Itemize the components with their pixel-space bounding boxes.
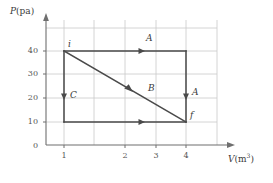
x-tick-label-4: 4 [177,151,195,160]
process-label-B-diagonal: B [148,83,155,93]
y-axis-label-unit: (pa) [16,6,34,16]
arrowhead-path-B-diagonal [124,84,133,92]
x-tick-label-2: 2 [116,151,134,160]
x-tick-label-1: 1 [55,151,73,160]
arrowhead-path-A-top [139,48,146,54]
x-axis-arrowhead [227,142,235,148]
process-label-A-right: A [192,87,199,97]
y-axis-arrowhead [43,13,49,21]
axes [43,13,235,148]
grid-lines [46,20,217,145]
x-axis-label-unit: (m [235,154,247,164]
y-tick-label-30: 30 [20,69,38,78]
process-label-A-top: A [146,33,153,43]
y-axis-label: P(pa) [10,6,34,16]
y-tick-label-0: 0 [20,141,38,150]
x-tick-label-3: 3 [147,151,165,160]
y-tick-label-10: 10 [20,117,38,126]
x-axis-label-paren: ) [250,154,254,164]
arrowhead-path-C-left [61,94,67,101]
y-tick-label-20: 20 [20,93,38,102]
state-point-label-f: f [190,110,193,120]
y-tick-label-40: 40 [20,46,38,55]
process-label-C-left: C [70,90,77,100]
arrowhead-path-C-bottom [139,119,146,125]
arrowhead-path-A-right [183,94,189,101]
state-point-label-i: i [68,39,71,49]
x-axis-label: V(m3) [228,152,254,164]
